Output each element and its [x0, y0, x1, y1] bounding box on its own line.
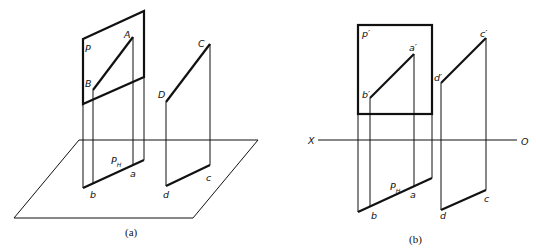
label-axis-x: X: [307, 135, 315, 146]
label-c: c: [484, 193, 490, 204]
label-D: D: [158, 89, 165, 100]
label-a: a: [410, 189, 416, 200]
line-a-prime-b-prime: [370, 54, 414, 98]
label-c: c: [206, 172, 212, 183]
projection-diagram: P A B C D a b c d PH (a) p′ a′ b′ c′ d′: [0, 0, 536, 250]
line-c-prime-d-prime: [441, 38, 486, 83]
label-d-prime: d′: [434, 72, 443, 83]
plane-p: [83, 11, 144, 104]
label-d: d: [163, 189, 170, 200]
label-b: b: [90, 189, 96, 200]
label-A: A: [123, 29, 131, 40]
label-trace-ph: PH: [111, 155, 122, 168]
caption-a: (a): [125, 226, 138, 239]
label-c-prime: c′: [480, 28, 488, 39]
horizontal-plane: [14, 140, 258, 218]
caption-b: (b): [409, 233, 422, 246]
label-b-prime: b′: [362, 89, 371, 100]
label-d: d: [440, 210, 447, 221]
line-cd: [166, 44, 210, 102]
line-ab: [93, 37, 133, 90]
panel-b: p′ a′ b′ c′ d′ a b c d PH X O (b): [307, 25, 529, 246]
label-trace-ph: PH: [390, 181, 401, 194]
line-cd-projection: [166, 165, 210, 186]
label-axis-o: O: [521, 136, 529, 147]
label-a-prime: a′: [409, 42, 418, 53]
label-b: b: [371, 210, 377, 221]
line-cd: [441, 190, 486, 210]
label-p-prime: p′: [361, 28, 371, 39]
label-B: B: [85, 78, 92, 89]
label-plane-p: P: [85, 43, 91, 54]
label-C: C: [198, 38, 205, 49]
label-a: a: [130, 168, 136, 179]
panel-a: P A B C D a b c d PH (a): [14, 11, 258, 239]
